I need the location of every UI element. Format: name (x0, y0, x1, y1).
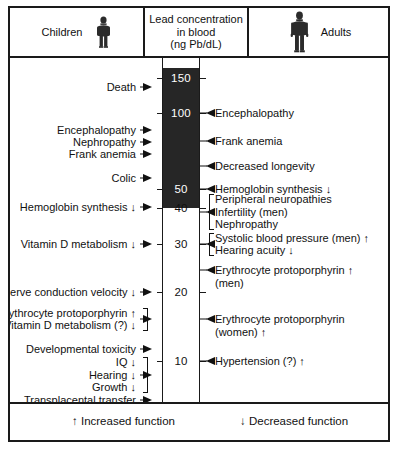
scale-title-line-3: (ng Pb/dL) (149, 38, 243, 51)
children-entry-label: Developmental toxicity (26, 343, 136, 356)
children-group-item: Erythrocyte protoporphyrin ↑ (10, 307, 136, 320)
children-entry: Nerve conduction velocity ↓ (10, 286, 136, 299)
header-adults-label: Adults (321, 26, 352, 39)
adults-entry-label-cont: (men) (215, 277, 353, 290)
adults-entry-label: Hypertension (?) ↑ (215, 355, 305, 368)
adults-pointer (206, 185, 215, 193)
legend-decreased-function: ↓ Decreased function (240, 415, 348, 427)
adults-pointer (206, 137, 215, 145)
adults-entry: Hypertension (?) ↑ (215, 355, 305, 368)
adults-entry: Erythrocyte protoporphyrin ↑(men) (215, 264, 353, 289)
scale-tick-label-20: 20 (163, 286, 199, 298)
children-group-item: IQ ↓ (89, 356, 136, 369)
header-children-label: Children (42, 26, 83, 39)
adults-group-item: Hearing acuity ↓ (215, 244, 369, 257)
adults-pointer (206, 315, 215, 323)
adults-group-item: Systolic blood pressure (men) ↑ (215, 232, 369, 245)
figure-legend: ↑ Increased function ↓ Decreased functio… (10, 402, 388, 440)
children-entry: Vitamin D metabolism ↓ (21, 238, 136, 251)
children-group-item: Growth ↓ (89, 381, 136, 394)
children-entry-label: Nephropathy (73, 136, 136, 149)
adults-group-pointer (206, 240, 215, 248)
adults-group-item: Infertility (men) (215, 206, 332, 219)
children-pointer (143, 174, 152, 182)
scale-tick-outer-40 (199, 208, 206, 209)
children-entry-label: Colic (112, 172, 136, 185)
child-figure-icon (96, 16, 111, 48)
adult-figure-icon (290, 11, 309, 53)
children-pointer (143, 83, 152, 91)
figure-header: Children Lead concentration in blood (ng… (10, 8, 388, 58)
children-pointer (143, 138, 152, 146)
adults-group-item: Peripheral neuropathies (215, 193, 332, 206)
lead-effects-figure: Children Lead concentration in blood (ng… (8, 6, 390, 442)
children-pointer (143, 288, 152, 296)
children-entry-label: Nerve conduction velocity ↓ (10, 286, 136, 299)
children-pointer (143, 150, 152, 158)
children-entry-label: Hemoglobin synthesis ↓ (20, 201, 136, 214)
scale-rail-right (199, 58, 200, 402)
plot-area: 1501005040302010 DeathEncephalopathyNeph… (10, 58, 388, 404)
children-group-pointer (143, 315, 152, 323)
adults-entry-label: Erythrocyte protoporphyrin (215, 313, 345, 326)
header-adults: Adults (249, 8, 392, 56)
children-entry: Frank anemia (69, 148, 136, 161)
scale-title-line-1: Lead concentration (149, 13, 243, 26)
children-pointer (143, 240, 152, 248)
children-entry-label: Encephalopathy (57, 124, 136, 137)
adults-group-pointer (206, 208, 215, 216)
adults-entry-label-cont: (women) ↑ (215, 326, 345, 339)
header-children: Children (10, 8, 143, 56)
children-pointer (143, 203, 152, 211)
scale-tick-label-50: 50 (163, 183, 199, 195)
adults-entry-label: Encephalopathy (215, 107, 294, 120)
adults-entry-label: Erythrocyte protoporphyrin ↑ (215, 264, 353, 277)
children-entry-label: Frank anemia (69, 148, 136, 161)
scale-tick-outer-150 (199, 78, 206, 79)
scale-title-line-2: in blood (149, 26, 243, 39)
adults-group: Systolic blood pressure (men) ↑Hearing a… (215, 232, 369, 257)
scale-tick-label-100: 100 (163, 107, 199, 119)
children-entry: Developmental toxicity (26, 343, 136, 356)
adults-entry: Erythrocyte protoporphyrin(women) ↑ (215, 313, 345, 338)
adults-pointer (206, 266, 215, 274)
adults-group: Peripheral neuropathiesInfertility (men)… (215, 193, 332, 231)
adults-entry: Encephalopathy (215, 107, 294, 120)
children-entry: Colic (112, 172, 136, 185)
adults-entry-label: Decreased longevity (215, 160, 315, 173)
children-group-item: Hearing ↓ (89, 369, 136, 382)
children-entry-label: Death (107, 81, 136, 94)
adults-pointer (206, 357, 215, 365)
children-entry: Death (107, 81, 136, 94)
children-pointer (143, 126, 152, 134)
adults-entry: Frank anemia (215, 135, 282, 148)
scale-tick-outer-20 (199, 292, 206, 293)
adults-entry-label: Frank anemia (215, 135, 282, 148)
scale-tick-label-10: 10 (163, 355, 199, 367)
scale-tick-label-30: 30 (163, 238, 199, 250)
adults-group-item: Nephropathy (215, 218, 332, 231)
children-entry: Encephalopathy (57, 124, 136, 137)
children-pointer (143, 345, 152, 353)
adults-pointer (206, 162, 215, 170)
adults-pointer (206, 109, 215, 117)
children-entry: Nephropathy (73, 136, 136, 149)
children-entry-label: Vitamin D metabolism ↓ (21, 238, 136, 251)
header-scale-title: Lead concentration in blood (ng Pb/dL) (143, 8, 249, 56)
children-group-pointer (143, 371, 152, 379)
children-entry: Hemoglobin synthesis ↓ (20, 201, 136, 214)
adults-entry: Decreased longevity (215, 160, 315, 173)
children-group: IQ ↓Hearing ↓Growth ↓ (89, 356, 136, 394)
children-group-item: Vitamin D metabolism (?) ↓ (10, 319, 136, 332)
scale-tick-label-40: 40 (163, 202, 199, 214)
scale-tick-label-150: 150 (163, 72, 199, 84)
legend-increased-function: ↑ Increased function (72, 415, 175, 427)
children-group: Erythrocyte protoporphyrin ↑Vitamin D me… (10, 307, 136, 332)
